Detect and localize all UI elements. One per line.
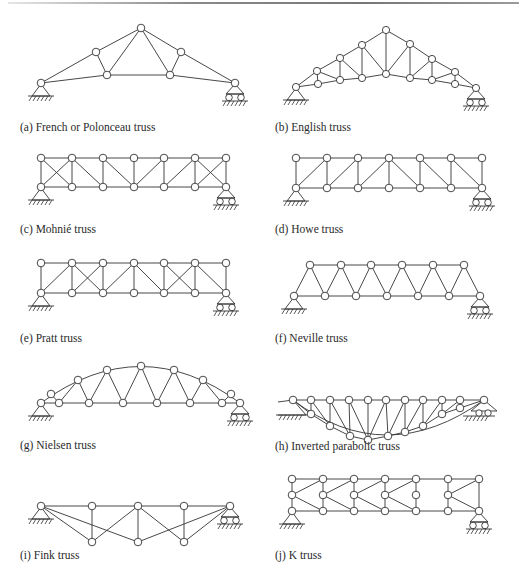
truss-k (279, 475, 492, 534)
roller-support-icon (467, 297, 493, 319)
roller-support-icon (213, 188, 239, 210)
truss-mohnie (28, 154, 239, 210)
caption-pratt-truss: (e) Pratt truss (20, 333, 82, 345)
roller-support-icon (222, 84, 248, 106)
caption-french-truss: (a) French or Polonceau truss (20, 122, 155, 134)
caption-mohnie-truss: (c) Mohnié truss (20, 224, 96, 236)
truss-french-polonceau (28, 24, 248, 106)
truss-figure (0, 0, 519, 572)
truss-english (283, 26, 489, 111)
truss-howe (283, 154, 495, 211)
roller-support-icon (463, 89, 489, 111)
roller-support-icon (213, 294, 239, 316)
truss-inverted-parabolic (276, 396, 497, 444)
caption-howe-truss: (d) Howe truss (275, 224, 343, 236)
roller-support-icon (217, 507, 243, 529)
roller-support-icon (466, 512, 492, 534)
roller-support-icon (227, 404, 253, 426)
truss-neville (281, 261, 493, 319)
caption-neville-truss: (f) Neville truss (275, 333, 348, 345)
caption-fink-truss: (i) Fink truss (20, 550, 79, 562)
truss-nielsen (28, 362, 253, 426)
caption-k-truss: (j) K truss (275, 550, 322, 562)
roller-support-icon (469, 189, 495, 211)
caption-inverted-parabolic-truss: (h) Inverted parabolic truss (275, 441, 400, 453)
truss-pratt (28, 259, 239, 316)
caption-nielsen-truss: (g) Nielsen truss (20, 440, 96, 452)
truss-fink (28, 502, 243, 546)
caption-english-truss: (b) English truss (275, 122, 351, 134)
